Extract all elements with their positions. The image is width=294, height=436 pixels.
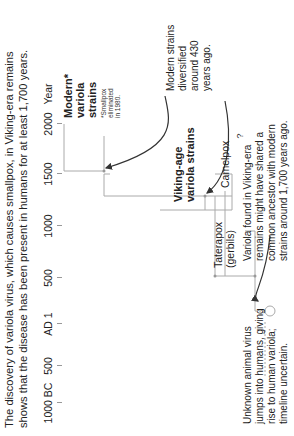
viking-strains-label: Viking-age variola strains bbox=[172, 127, 196, 202]
annotation-modern-diversified: Modern strains diversified around 430 ye… bbox=[165, 25, 213, 91]
rotated-frame: The discovery of variola virus, which ca… bbox=[0, 0, 294, 436]
annotation-unknown-jump: Unknown animal virus jumps into humans, … bbox=[242, 308, 290, 424]
taterapox-label: Taterapox (gerbils) bbox=[212, 222, 236, 268]
annotation-viking-ancestor: Variola found in Viking-era remains migh… bbox=[242, 120, 290, 261]
modern-strains-label: Modern* variola strains *Smallpox elimin… bbox=[62, 74, 121, 118]
variola-timeline-diagram: The discovery of variola virus, which ca… bbox=[0, 0, 294, 436]
camelpox-label: Camelpox bbox=[219, 141, 231, 188]
